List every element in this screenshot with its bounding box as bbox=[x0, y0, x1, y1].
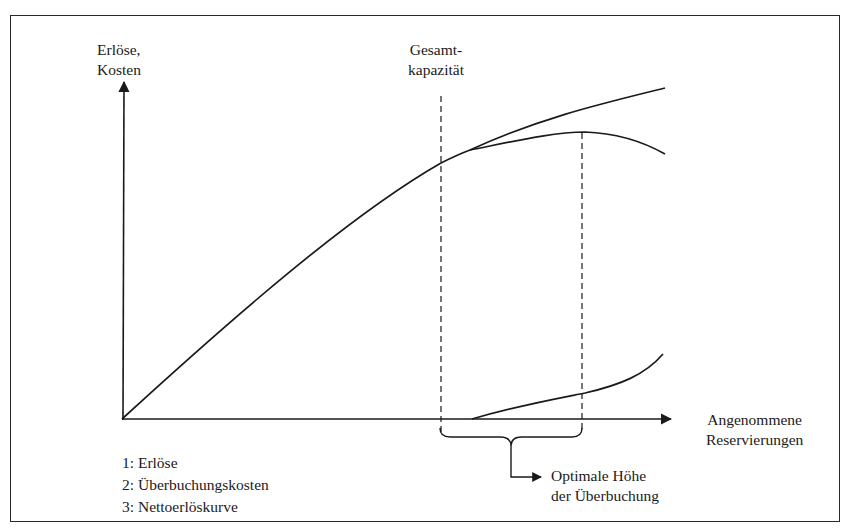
capacity-label-line2: kapazität bbox=[408, 60, 464, 80]
y-axis-label-line2: Kosten bbox=[97, 60, 141, 80]
y-axis bbox=[123, 82, 124, 420]
optimal-range-brace bbox=[440, 428, 582, 446]
y-axis-label: Erlöse, Kosten bbox=[97, 40, 141, 80]
x-axis-label-line1: Angenommene bbox=[706, 410, 803, 430]
overbooking-cost-curve bbox=[472, 354, 663, 419]
legend-item-net-revenue: 3: Nettoerlöskurve bbox=[122, 496, 269, 518]
net-revenue-curve bbox=[470, 132, 665, 154]
x-axis-label: Angenommene Reservierungen bbox=[706, 410, 803, 450]
capacity-label-line1: Gesamt- bbox=[408, 40, 464, 60]
legend: 1: Erlöse 2: Überbuchungskosten 3: Netto… bbox=[122, 452, 269, 518]
revenue-curve bbox=[122, 88, 665, 419]
optimal-label-line1: Optimale Höhe bbox=[551, 466, 659, 486]
y-axis-label-line1: Erlöse, bbox=[97, 40, 141, 60]
capacity-label: Gesamt- kapazität bbox=[408, 40, 464, 80]
x-axis-label-line2: Reservierungen bbox=[706, 430, 803, 450]
optimal-label-line2: der Überbuchung bbox=[551, 486, 659, 506]
optimal-overbooking-label: Optimale Höhe der Überbuchung bbox=[551, 466, 659, 506]
legend-item-revenue: 1: Erlöse bbox=[122, 452, 269, 474]
brace-pointer-arrow bbox=[511, 446, 541, 477]
legend-item-overbooking-costs: 2: Überbuchungskosten bbox=[122, 474, 269, 496]
